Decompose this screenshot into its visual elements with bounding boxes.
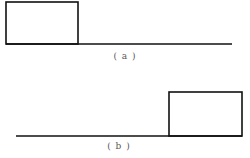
panel-a-caption: ( a ) [105,51,145,61]
panel-a-rectangle [6,2,78,44]
panel-b [16,92,242,136]
diagram-canvas [0,0,250,158]
panel-b-caption: ( b ) [99,141,139,151]
panel-a [6,2,232,44]
panel-b-rectangle [169,92,242,136]
